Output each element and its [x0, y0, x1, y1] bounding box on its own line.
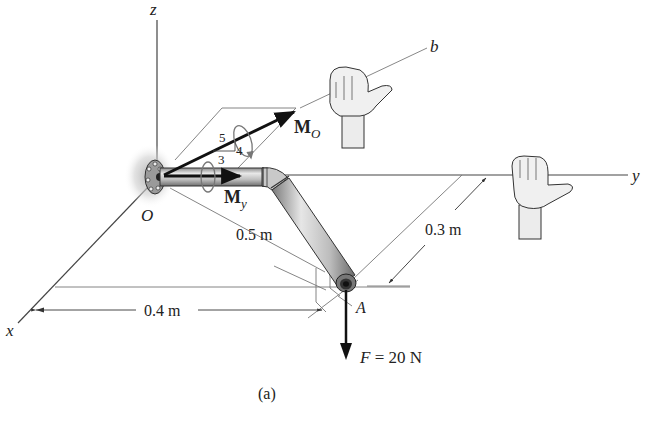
- slope-adj-label: 4: [236, 143, 243, 158]
- dimension-label-0.4m: 0.4 m: [144, 302, 181, 319]
- force-arrow: [340, 290, 352, 360]
- b-axis-label: b: [430, 37, 439, 56]
- slope-hyp-label: 5: [219, 130, 226, 145]
- moment-mo-arrow: [164, 112, 294, 175]
- x-axis: [18, 185, 150, 323]
- x-axis-label: x: [5, 321, 14, 340]
- statics-diagram: z y x b O A MO My 5 4 3 0.5 m 0.3 m 0.4 …: [0, 0, 649, 423]
- figure-caption: (a): [258, 385, 276, 403]
- force-label: F = 20 N: [359, 348, 422, 367]
- diagram-canvas: z y x b O A MO My 5 4 3 0.5 m 0.3 m 0.4 …: [0, 0, 649, 423]
- origin-label: O: [141, 206, 153, 225]
- dimension-label-0.3m: 0.3 m: [425, 221, 462, 238]
- hand-icon-y-axis: [512, 156, 573, 239]
- hand-icon-b-axis: [330, 67, 392, 148]
- dimension-label-0.5m: 0.5 m: [236, 226, 273, 243]
- point-a-label: A: [355, 299, 366, 316]
- y-axis-label: y: [630, 166, 640, 185]
- construction-lines: [55, 108, 462, 318]
- moment-my-label: My: [224, 187, 247, 211]
- moment-mo-label: MO: [294, 117, 321, 141]
- z-axis-label: z: [149, 0, 157, 19]
- slope-opp-label: 3: [218, 152, 225, 167]
- leader-0.5m: [274, 266, 326, 290]
